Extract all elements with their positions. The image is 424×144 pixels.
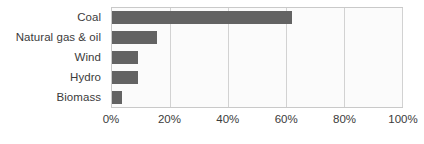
x-tick-label: 20% <box>158 112 181 126</box>
category-label-biomass: Biomass <box>57 91 106 104</box>
bar-wind <box>112 51 138 64</box>
x-tick-label: 40% <box>216 112 239 126</box>
x-tick-label: 0% <box>103 112 120 126</box>
bars-layer <box>112 8 402 107</box>
category-label-coal: Coal <box>77 11 106 24</box>
table-row <box>112 31 402 44</box>
x-tick-label: 100% <box>388 112 417 126</box>
category-label-hydro: Hydro <box>70 71 106 84</box>
plot-inner <box>112 8 402 107</box>
plot-area <box>111 7 403 108</box>
table-row <box>112 11 402 24</box>
category-label-natural-gas-and-oil: Natural gas & oil <box>16 31 106 44</box>
gridline-100pct <box>402 8 403 107</box>
value-axis: 0%20%40%60%80%100% <box>111 112 403 132</box>
table-row <box>112 51 402 64</box>
bar-natural-gas-and-oil <box>112 31 157 44</box>
bar-coal <box>112 11 292 24</box>
x-tick-label: 60% <box>275 112 298 126</box>
table-row <box>112 91 402 104</box>
bar-biomass <box>112 91 122 104</box>
bar-chart: Coal Natural gas & oil Wind Hydro Biomas… <box>0 0 424 144</box>
category-label-wind: Wind <box>75 51 106 64</box>
bar-hydro <box>112 71 138 84</box>
table-row <box>112 71 402 84</box>
x-tick-label: 80% <box>333 112 356 126</box>
category-axis: Coal Natural gas & oil Wind Hydro Biomas… <box>0 7 106 108</box>
